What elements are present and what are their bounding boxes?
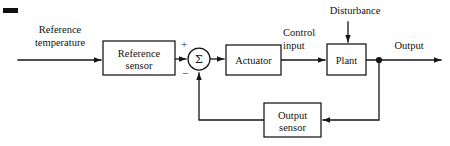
summing-junction-minus-sign: − [182,67,188,79]
label-output: Output [394,40,423,51]
block-label-output-sensor-line2: sensor [279,122,306,133]
block-diagram-canvas: Reference sensor Actuator Plant Output s… [0,0,450,146]
summing-junction-plus-sign: + [181,38,187,50]
block-label-output-sensor-line1: Output [278,110,307,121]
corner-dash-artifact [3,8,18,13]
label-reference-temperature-line1: Reference [39,24,82,35]
block-label-reference-sensor-line2: sensor [126,60,153,71]
wire-sensor-to-sum [199,73,264,120]
block-label-plant: Plant [336,55,358,66]
block-label-actuator: Actuator [235,55,272,66]
block-label-reference-sensor-line1: Reference [118,48,161,59]
label-disturbance: Disturbance [330,5,381,16]
block-diagram-svg: Reference sensor Actuator Plant Output s… [0,0,450,146]
label-reference-temperature-line2: temperature [35,37,85,48]
label-control-input-line1: Control [283,27,315,38]
sigma-symbol: Σ [195,53,203,66]
label-control-input-line2: input [283,40,305,51]
output-tap-dot [376,57,382,63]
